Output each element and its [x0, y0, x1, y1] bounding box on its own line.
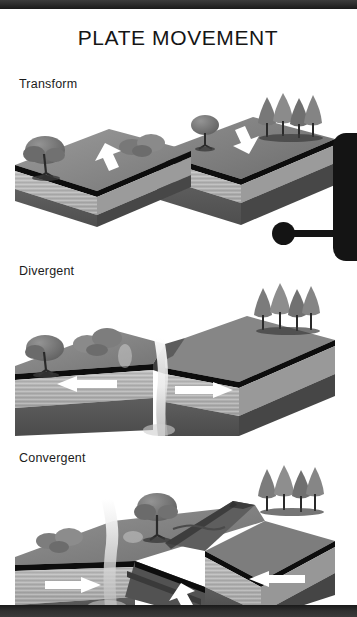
page-edge-right: [351, 9, 357, 605]
slide-canvas: PLATE MOVEMENT Transform: [5, 9, 351, 605]
conifer-cluster-right: [258, 465, 324, 516]
frame-band-top: [0, 0, 357, 9]
diagram-transform: [5, 91, 351, 227]
section-label-divergent: Divergent: [19, 264, 74, 278]
section-transform: Transform: [5, 77, 351, 227]
plate-block-right: [205, 521, 335, 605]
plate-block-right: [165, 316, 335, 436]
frame-band-bottom: [0, 605, 357, 617]
section-divergent: Divergent: [5, 264, 351, 436]
screenshot-viewport: PLATE MOVEMENT Transform: [0, 0, 357, 617]
conifer-cluster-right: [254, 283, 320, 335]
conifer-cluster-right: [258, 93, 323, 142]
diagram-convergent: [5, 465, 351, 605]
pin-connector: [287, 230, 333, 237]
section-label-convergent: Convergent: [19, 451, 86, 465]
section-convergent: Convergent: [5, 451, 351, 605]
diagram-divergent: [5, 278, 351, 436]
subduction-slab: [125, 561, 205, 605]
page-title: PLATE MOVEMENT: [5, 9, 351, 50]
section-label-transform: Transform: [19, 77, 77, 91]
page-edge-left: [0, 9, 5, 605]
side-tab-handle[interactable]: [333, 133, 357, 261]
